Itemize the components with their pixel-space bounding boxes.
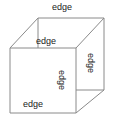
edge-label-center-vertical: edge [57, 70, 67, 90]
cube-edge-diagram: edge edge edge edge edge [0, 0, 114, 123]
cube-drawing [0, 0, 114, 123]
edge-label-right-vertical: edge [86, 53, 96, 73]
edge-label-top-front: edge [36, 36, 56, 46]
edge-label-bottom-front: edge [23, 99, 43, 109]
cube-edge-top-left-connector [10, 18, 38, 48]
edge-label-top-back: edge [52, 2, 72, 12]
cube-edge-bottom-right-connector [76, 90, 104, 113]
